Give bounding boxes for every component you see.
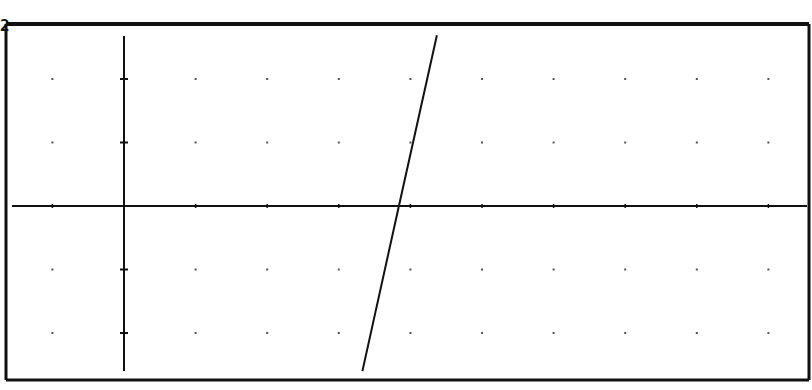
graph-screen (0, 0, 812, 390)
grid-dot (696, 269, 698, 271)
grid-dot (51, 269, 53, 271)
grid-dot (553, 78, 555, 80)
grid-dot (481, 269, 483, 271)
grid-dot (266, 142, 268, 144)
grid-dot (481, 142, 483, 144)
grid-dot (51, 142, 53, 144)
grid-dot (767, 332, 769, 334)
grid-dot (195, 78, 197, 80)
grid-dot (338, 78, 340, 80)
grid-dot (195, 332, 197, 334)
grid-dot (696, 332, 698, 334)
grid-dot (338, 269, 340, 271)
plotted-function (362, 35, 437, 371)
axes (12, 36, 807, 371)
grid-dot (195, 142, 197, 144)
grid-dot (481, 332, 483, 334)
grid-dot (338, 332, 340, 334)
grid-dot (51, 332, 53, 334)
grid-dot (767, 78, 769, 80)
grid-dot (767, 142, 769, 144)
grid-dot (624, 332, 626, 334)
grid-dot (409, 332, 411, 334)
grid-dot (338, 142, 340, 144)
grid-dot (409, 78, 411, 80)
grid-dot (195, 269, 197, 271)
grid-dot (409, 269, 411, 271)
grid-dot (624, 269, 626, 271)
grid-dot (553, 332, 555, 334)
graph-frame (6, 24, 809, 380)
grid-dot (553, 269, 555, 271)
grid-dot (553, 142, 555, 144)
grid-dot (266, 269, 268, 271)
function-graph-line (362, 35, 437, 371)
grid-dot (481, 78, 483, 80)
grid-dot (624, 142, 626, 144)
grid-dot (696, 142, 698, 144)
grid-dot (266, 78, 268, 80)
grid-dot (696, 78, 698, 80)
grid-dot (767, 269, 769, 271)
grid-dot (51, 78, 53, 80)
grid-dot (624, 78, 626, 80)
grid-dot (266, 332, 268, 334)
grid-dot (409, 142, 411, 144)
